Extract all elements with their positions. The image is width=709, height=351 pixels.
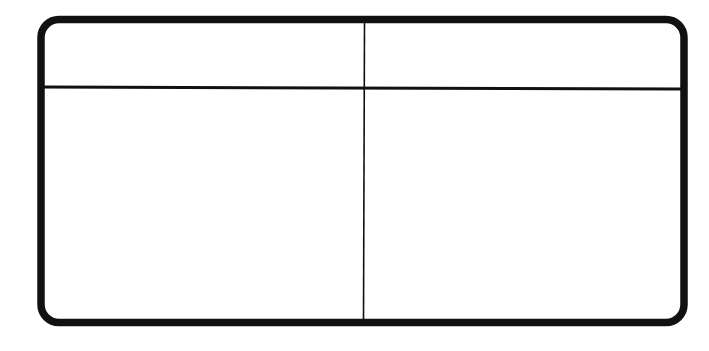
column-divider [364,22,365,319]
table-outline-diagram [0,0,709,351]
outer-border [41,20,684,323]
header-divider [44,87,681,89]
